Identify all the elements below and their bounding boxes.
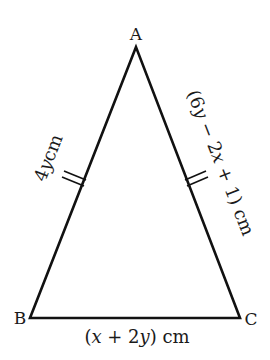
ab-unit: cm — [37, 131, 66, 164]
bc-var-x: x — [91, 326, 101, 347]
side-label-bc: (x + 2y) cm — [84, 326, 189, 347]
bc-plus: + 2 — [102, 326, 140, 347]
side-label-ac: (6y − 2x + 1) cm — [183, 87, 259, 239]
vertex-label-a: A — [129, 24, 143, 44]
bc-unit: cm — [157, 326, 190, 347]
vertex-label-b: B — [14, 308, 27, 328]
side-label-ab: 4ycm — [29, 131, 66, 184]
bc-open: ( — [84, 326, 91, 347]
bc-close: ) — [150, 326, 157, 347]
vertex-label-c: C — [244, 309, 257, 329]
ac-rest: + 1) — [211, 158, 247, 208]
triangle-abc — [30, 47, 240, 318]
isosceles-triangle-diagram: A B C 4ycm (6y − 2x + 1) cm (x + 2y) cm — [0, 0, 270, 360]
ac-unit: cm — [227, 200, 259, 238]
